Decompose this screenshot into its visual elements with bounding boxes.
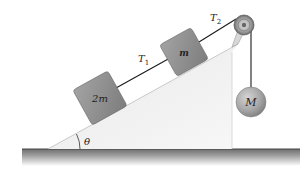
block-m-label: m — [179, 48, 189, 58]
theta-label: θ — [84, 136, 90, 147]
hanging-mass-label: M — [244, 96, 257, 109]
tension-t1-label: T1 — [138, 53, 149, 67]
hanging-mass: M — [236, 87, 266, 117]
tension-t2-label: T2 — [210, 12, 221, 26]
block-2m-label: 2m — [91, 93, 108, 104]
ground — [22, 149, 300, 166]
svg-text:T2: T2 — [210, 12, 221, 26]
diagram-canvas: θ 2m m M T1 T2 — [0, 0, 308, 172]
svg-text:T1: T1 — [138, 53, 149, 67]
pulley — [234, 15, 254, 35]
